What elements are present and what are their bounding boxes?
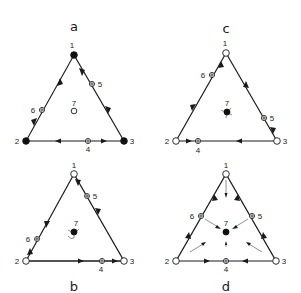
vertex-label-1: 1 (224, 161, 229, 170)
panel-label-d: d (222, 279, 230, 293)
saddle-node-6 (198, 213, 203, 218)
center-node-7 (68, 229, 79, 239)
arrow-icon (204, 259, 210, 264)
vertex-node-2 (23, 258, 30, 265)
vertex-node-2 (173, 258, 180, 265)
center-node-7 (223, 229, 229, 235)
vertex-node-2 (173, 138, 180, 145)
edge-1-3 (226, 53, 277, 141)
vertex-label-1: 1 (70, 41, 75, 50)
vertex-label-3: 3 (130, 137, 135, 146)
saddle-node-4 (223, 258, 228, 263)
saddle-label-6: 6 (190, 212, 195, 221)
edge-1-2 (176, 53, 226, 141)
vertex-label-1: 1 (223, 39, 228, 48)
arrow-icon (186, 139, 192, 144)
vertex-node-2 (23, 138, 30, 145)
arrow-icon (57, 78, 63, 86)
panel-d: 1 2 3 6 5 4 7 d (165, 161, 287, 293)
vertex-label-2: 2 (165, 137, 170, 146)
vertex-node-3 (274, 138, 281, 145)
saddle-node-5 (89, 81, 94, 86)
center-label-7: 7 (225, 99, 230, 108)
saddle-label-5: 5 (270, 114, 275, 123)
arrow-icon (236, 139, 242, 144)
phase-portrait-figure: a 1 2 3 5 6 4 7 c (0, 0, 301, 293)
edge-1-2 (26, 55, 74, 141)
saddle-node-4 (99, 258, 104, 263)
panel-label-a: a (70, 19, 78, 34)
arrow-icon (242, 259, 248, 264)
vertex-label-2: 2 (15, 137, 20, 146)
vertex-label-2: 2 (165, 257, 170, 266)
vertex-label-3: 3 (283, 137, 288, 146)
saddle-node-6 (39, 107, 44, 112)
arrow-icon (78, 259, 84, 264)
center-label-7: 7 (224, 219, 229, 228)
saddle-label-5: 5 (98, 80, 103, 89)
vertex-label-3: 3 (282, 257, 287, 266)
saddle-label-6: 6 (26, 235, 31, 244)
saddle-node-4 (85, 138, 90, 143)
edge-1-3 (74, 174, 124, 261)
saddle-label-5: 5 (93, 192, 98, 201)
arrow-icon (55, 139, 61, 144)
vertex-node-1 (223, 171, 230, 178)
center-label-7: 7 (72, 99, 77, 108)
panel-c: c 1 2 3 6 5 4 7 (165, 21, 288, 155)
saddle-label-6: 6 (201, 71, 206, 80)
saddle-label-4: 4 (86, 145, 91, 154)
arrow-icon (101, 139, 107, 144)
vertex-node-1 (71, 52, 78, 59)
panel-label-c: c (222, 21, 229, 36)
saddle-node-6 (209, 72, 214, 77)
edge-1-3 (74, 55, 124, 141)
saddle-label-5: 5 (258, 212, 263, 221)
vertex-node-1 (223, 50, 230, 57)
saddle-label-4: 4 (224, 265, 229, 274)
panel-b: 1 2 3 5 6 4 7 b (15, 161, 135, 293)
saddle-node-6 (35, 237, 40, 242)
vertex-node-3 (273, 258, 280, 265)
saddle-label-6: 6 (31, 106, 36, 115)
vertex-node-3 (121, 138, 128, 145)
saddle-node-5 (261, 115, 266, 120)
saddle-node-5 (85, 194, 90, 199)
vertex-label-3: 3 (130, 257, 135, 266)
saddle-node-5 (249, 213, 254, 218)
center-node-7 (221, 108, 232, 118)
center-label-7: 7 (74, 219, 79, 228)
panel-label-b: b (70, 279, 78, 293)
center-node-7 (71, 108, 77, 114)
saddle-label-4: 4 (99, 265, 104, 274)
saddle-node-4 (195, 138, 200, 143)
saddle-label-4: 4 (196, 146, 201, 155)
panel-a: a 1 2 3 5 6 4 7 (15, 19, 135, 154)
vertex-label-2: 2 (15, 257, 20, 266)
vertex-node-3 (121, 258, 128, 265)
edge-1-2 (26, 174, 74, 261)
vertex-label-1: 1 (72, 161, 77, 170)
arrow-icon (112, 259, 118, 264)
vertex-node-1 (71, 171, 78, 178)
